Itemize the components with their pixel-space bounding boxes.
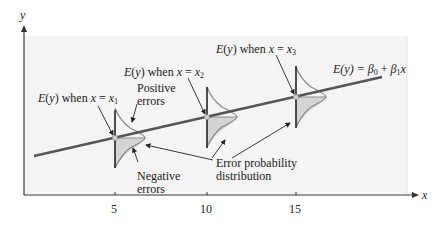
x-axis-label: x <box>422 189 427 202</box>
label-ey-x2: E(y) when x = x2 <box>124 66 204 82</box>
x-tick-15: 15 <box>289 203 301 216</box>
y-axis-label: y <box>20 9 25 22</box>
label-positive-errors: Positive errors <box>137 82 176 108</box>
label-error-distribution: Error probability distribution <box>216 157 297 183</box>
label-negative-errors: Negative errors <box>137 170 180 196</box>
x-tick-5: 5 <box>111 203 117 216</box>
regression-diagram <box>0 0 448 226</box>
label-ey-x1: E(y) when x = x1 <box>38 92 118 108</box>
regression-equation: E(y) = β0 + β1x <box>333 63 406 79</box>
x-tick-10: 10 <box>200 203 212 216</box>
label-ey-x3: E(y) when x = x3 <box>216 43 296 59</box>
